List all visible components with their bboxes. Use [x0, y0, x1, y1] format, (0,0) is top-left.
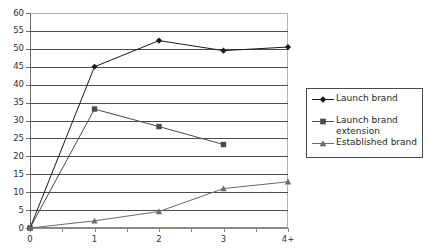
y-tick-label: 30 — [2, 116, 24, 124]
data-point-marker — [285, 179, 291, 185]
data-point-marker — [220, 48, 226, 54]
y-tick-label: 10 — [2, 188, 24, 196]
data-point-marker — [320, 119, 326, 125]
x-tick-mark-minor — [127, 228, 128, 232]
y-tick-label: 15 — [2, 170, 24, 178]
x-tick-label: 0 — [15, 235, 45, 244]
legend-item-1[interactable]: Launch brand — [311, 93, 398, 105]
legend-label: Launch brand — [336, 93, 398, 104]
x-tick-label: 2 — [144, 235, 174, 244]
y-tick-label: 60 — [2, 9, 24, 17]
x-tick-mark — [288, 228, 289, 232]
legend-item-2[interactable]: Launch brand extension — [311, 115, 398, 136]
y-tick-label: 45 — [2, 62, 24, 70]
data-point-marker — [285, 44, 291, 50]
y-tick-label: 5 — [2, 206, 24, 214]
legend-label: Launch brand extension — [336, 115, 398, 136]
data-point-marker — [320, 96, 327, 103]
legend-marker-triangle-icon — [311, 138, 335, 149]
x-tick-mark — [159, 228, 160, 232]
x-tick-label: 1 — [80, 235, 110, 244]
x-tick-mark — [224, 228, 225, 232]
data-point-marker — [221, 142, 226, 147]
legend-label: Established brand — [336, 137, 417, 148]
y-tick-label: 50 — [2, 44, 24, 52]
y-tick-label: 25 — [2, 134, 24, 142]
y-tick-label: 35 — [2, 98, 24, 106]
series-line-2 — [30, 109, 224, 228]
data-point-marker — [156, 124, 161, 129]
data-point-marker — [92, 106, 97, 111]
x-tick-label: 3 — [209, 235, 239, 244]
x-tick-mark-minor — [256, 228, 257, 232]
legend-marker-diamond-icon — [311, 94, 335, 105]
chart-legend: Launch brandLaunch brand extensionEstabl… — [306, 88, 423, 158]
y-tick-label: 20 — [2, 152, 24, 160]
series-line-3 — [30, 182, 288, 228]
x-tick-label: 4+ — [273, 235, 303, 244]
legend-marker-square-icon — [311, 116, 335, 127]
series-line-1 — [30, 41, 288, 228]
data-point-marker — [91, 64, 97, 70]
y-tick-label: 55 — [2, 26, 24, 34]
x-tick-mark — [95, 228, 96, 232]
y-tick-label: 0 — [2, 224, 24, 232]
data-point-marker — [156, 37, 162, 43]
x-tick-mark-minor — [191, 228, 192, 232]
legend-item-3[interactable]: Established brand — [311, 137, 417, 149]
x-tick-mark-minor — [62, 228, 63, 232]
y-tick-label: 40 — [2, 80, 24, 88]
chart-title — [30, 0, 288, 1]
chart-container: 051015202530354045505560 01234+ Launch b… — [0, 0, 429, 250]
series-lines — [30, 13, 288, 228]
